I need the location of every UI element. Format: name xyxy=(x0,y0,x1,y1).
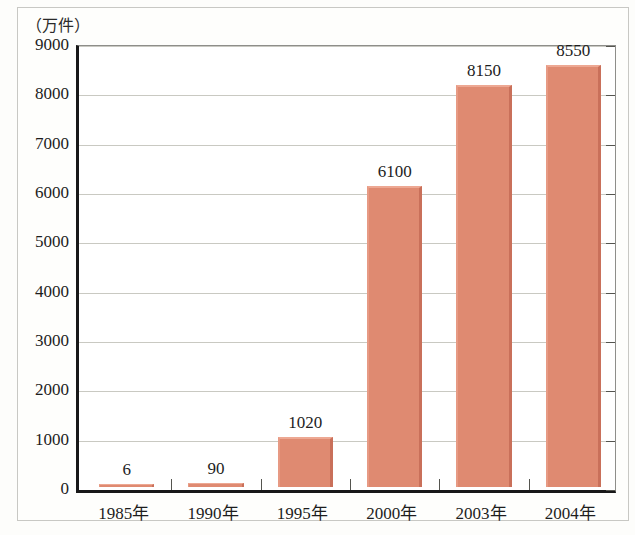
x-axis-tick-mark xyxy=(350,479,351,490)
bar xyxy=(99,484,154,487)
x-axis-tick-mark xyxy=(171,479,172,490)
x-axis-tick-mark xyxy=(261,479,262,490)
bar-group: 8550 xyxy=(546,46,601,490)
bar xyxy=(188,483,243,487)
x-axis-category-label: 1990年 xyxy=(188,499,239,524)
x-axis-tick-mark xyxy=(439,479,440,490)
bar xyxy=(278,437,333,487)
bar-group: 8150 xyxy=(456,46,511,490)
bar-group: 6 xyxy=(99,46,154,490)
y-axis-tick-label: 3000 xyxy=(9,331,69,351)
bar xyxy=(367,186,422,487)
bar-value-label: 6 xyxy=(122,460,131,480)
bar-group: 90 xyxy=(188,46,243,490)
x-axis-category-label: 1995年 xyxy=(277,499,328,524)
bar xyxy=(456,85,511,487)
y-axis-tick-label: 1000 xyxy=(9,430,69,450)
y-axis-tick-label: 7000 xyxy=(9,134,69,154)
y-axis-tick-mark xyxy=(606,490,615,491)
bar-value-label: 8550 xyxy=(556,41,590,61)
x-axis-category-label: 2000年 xyxy=(366,499,417,524)
y-axis-tick-label: 9000 xyxy=(9,35,69,55)
bar-group: 1020 xyxy=(278,46,333,490)
bar-group: 6100 xyxy=(367,46,422,490)
y-axis-unit-label: （万件） xyxy=(26,12,90,36)
bar xyxy=(546,65,601,487)
y-axis-tick-label: 5000 xyxy=(9,232,69,252)
y-axis-tick-label: 2000 xyxy=(9,380,69,400)
bar-series: 6901020610081508550 xyxy=(79,46,615,490)
y-axis-tick-label: 8000 xyxy=(9,84,69,104)
y-axis-tick-label: 6000 xyxy=(9,183,69,203)
chart-page: （万件） 01000200030004000500060007000800090… xyxy=(0,0,635,535)
y-axis-tick-label: 4000 xyxy=(9,282,69,302)
bar-value-label: 8150 xyxy=(467,61,501,81)
x-axis-category-label: 2004年 xyxy=(545,499,596,524)
bar-value-label: 1020 xyxy=(288,413,322,433)
plot-area: 6901020610081508550 xyxy=(76,45,616,493)
y-axis-tick-label: 0 xyxy=(9,479,69,499)
x-axis-category-label: 1985年 xyxy=(98,499,149,524)
bar-value-label: 6100 xyxy=(378,162,412,182)
x-axis-category-label: 2003年 xyxy=(456,499,507,524)
x-axis-tick-mark xyxy=(529,479,530,490)
bar-value-label: 90 xyxy=(207,459,224,479)
